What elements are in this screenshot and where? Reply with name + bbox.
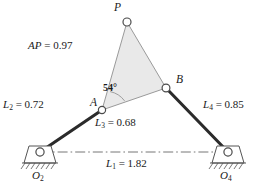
ground-pivot-O4 (209, 146, 246, 169)
point-label-A-text: A (90, 96, 97, 108)
joint-B (162, 84, 170, 92)
point-label-P-text: P (114, 1, 121, 13)
angle-label-54-text: 54° (103, 82, 117, 93)
coupler-point-P (123, 18, 131, 26)
dimension-L3-eq: = (105, 116, 117, 128)
dimension-label-L1: L1 = 1.82 (106, 158, 147, 171)
point-label-O4: O4 (220, 170, 232, 183)
point-label-B-text: B (176, 73, 183, 85)
dimension-L4-eq: = (213, 98, 225, 110)
dimension-L4-value: 0.85 (225, 98, 244, 110)
ground-pivot-O2 (21, 146, 58, 169)
point-label-A: A (90, 97, 97, 109)
dimension-label-L2: L2 = 0.72 (3, 99, 44, 112)
point-label-P: P (114, 2, 121, 14)
figure-canvas: P A B O2 O4 54° AP = 0.97 L2 = 0.72 L4 =… (0, 0, 273, 186)
point-label-O2-sub: 2 (40, 174, 44, 183)
dimension-AP-value: 0.97 (53, 39, 72, 51)
dimension-AP-base: AP (28, 39, 41, 51)
dimension-L1-value: 1.82 (128, 157, 147, 169)
dimension-label-L3: L3 = 0.68 (95, 117, 136, 130)
dimension-label-AP: AP = 0.97 (28, 40, 72, 51)
joint-A (98, 106, 105, 113)
point-label-O2: O2 (32, 170, 44, 183)
point-label-O4-sub: 4 (228, 174, 232, 183)
dimension-L2-value: 0.72 (25, 98, 44, 110)
point-label-O4-base: O (220, 169, 228, 181)
point-label-O2-base: O (32, 169, 40, 181)
dimension-AP-eq: = (41, 39, 53, 51)
point-label-B: B (176, 74, 183, 86)
dimension-L2-eq: = (13, 98, 25, 110)
coupler-triangle-ABP (102, 22, 166, 110)
dimension-L3-value: 0.68 (117, 116, 136, 128)
angle-label-54: 54° (103, 83, 117, 93)
dimension-label-L4: L4 = 0.85 (203, 99, 244, 112)
dimension-L1-eq: = (116, 157, 128, 169)
